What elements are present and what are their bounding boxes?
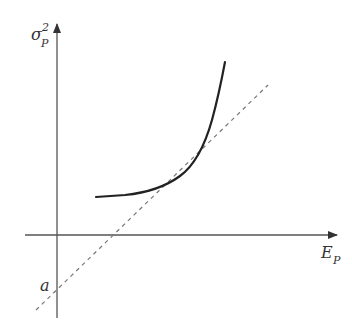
x-axis-label-base: E: [320, 243, 333, 262]
frontier-curve: [96, 62, 225, 197]
tangent-line-dashed: [36, 85, 268, 310]
y-axis-label-sub: P: [40, 37, 49, 50]
x-axis-label: E P: [320, 243, 341, 267]
y-axis-label-sup: 2: [41, 21, 49, 34]
diagram-canvas: σ 2 P E P a: [0, 0, 352, 336]
intercept-label: a: [40, 276, 50, 295]
x-axis-label-sub: P: [332, 254, 341, 267]
y-axis-label: σ 2 P: [31, 21, 49, 50]
